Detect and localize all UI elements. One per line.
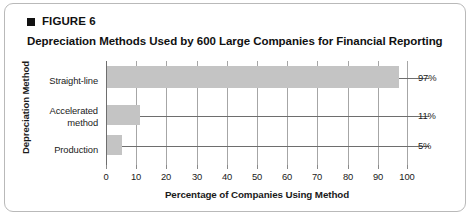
figure-card: FIGURE 6 Depreciation Methods Used by 60… bbox=[0, 0, 472, 218]
category-label-straight-line: Straight-line bbox=[34, 75, 98, 87]
x-tick-mark-70 bbox=[317, 165, 318, 169]
figure-header: FIGURE 6 Depreciation Methods Used by 60… bbox=[27, 15, 447, 48]
x-tick-mark-60 bbox=[287, 165, 288, 169]
x-axis: 0 10 20 30 40 50 60 70 80 90 100 Percent… bbox=[106, 165, 408, 205]
x-tick-label-30: 30 bbox=[182, 171, 212, 182]
x-tick-label-40: 40 bbox=[212, 171, 242, 182]
leader-line-production bbox=[122, 146, 429, 147]
x-tick-mark-30 bbox=[197, 165, 198, 169]
x-tick-mark-40 bbox=[227, 165, 228, 169]
x-tick-label-0: 0 bbox=[91, 171, 121, 182]
category-label-production: Production bbox=[34, 144, 98, 156]
x-tick-mark-80 bbox=[348, 165, 349, 169]
x-tick-label-70: 70 bbox=[302, 171, 332, 182]
figure-number: FIGURE 6 bbox=[42, 16, 96, 28]
data-label-production: 5% bbox=[418, 140, 431, 151]
leader-line-accelerated-method bbox=[140, 116, 429, 117]
x-tick-label-100: 100 bbox=[392, 171, 422, 182]
x-tick-label-10: 10 bbox=[121, 171, 151, 182]
x-tick-mark-50 bbox=[257, 165, 258, 169]
x-tick-mark-90 bbox=[378, 165, 379, 169]
y-axis-category-labels: Straight-line Accelerated method Product… bbox=[34, 55, 98, 165]
x-tick-mark-0 bbox=[106, 165, 107, 169]
x-tick-mark-10 bbox=[136, 165, 137, 169]
chart-area: Depreciation Method Straight-line Accele… bbox=[0, 55, 472, 205]
x-tick-label-80: 80 bbox=[333, 171, 363, 182]
square-bullet-icon bbox=[27, 18, 35, 26]
plot-area bbox=[106, 61, 408, 165]
category-label-accelerated-method: Accelerated method bbox=[34, 105, 98, 128]
y-axis-title: Depreciation Method bbox=[20, 53, 31, 163]
x-tick-label-50: 50 bbox=[242, 171, 272, 182]
x-tick-mark-100 bbox=[407, 165, 408, 169]
bar-straight-line bbox=[107, 66, 399, 88]
x-tick-label-20: 20 bbox=[151, 171, 181, 182]
data-label-accelerated-method: 11% bbox=[418, 110, 436, 121]
figure-title: Depreciation Methods Used by 600 Large C… bbox=[27, 35, 447, 48]
bar-production bbox=[107, 135, 122, 155]
bar-accelerated-method bbox=[107, 105, 140, 125]
figure-kicker: FIGURE 6 bbox=[27, 15, 447, 29]
gridline-100 bbox=[407, 61, 408, 165]
x-tick-label-90: 90 bbox=[363, 171, 393, 182]
data-label-straight-line: 97% bbox=[418, 72, 436, 83]
x-tick-mark-20 bbox=[166, 165, 167, 169]
x-axis-title: Percentage of Companies Using Method bbox=[106, 189, 408, 200]
data-value-labels: 97% 11% 5% bbox=[418, 55, 462, 165]
x-tick-label-60: 60 bbox=[272, 171, 302, 182]
